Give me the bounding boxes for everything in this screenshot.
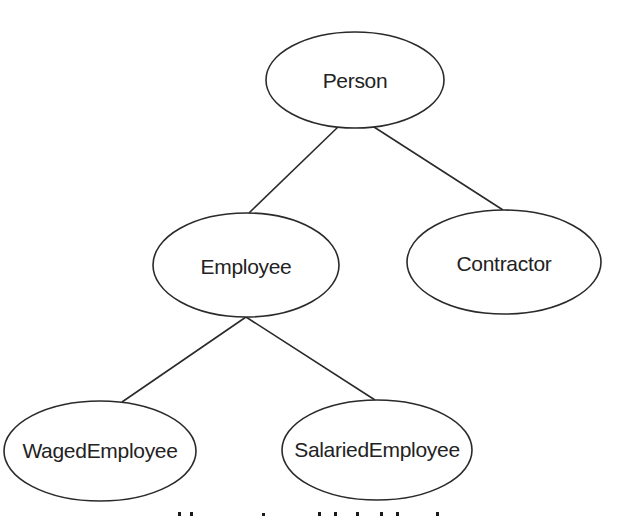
edge-employee-salaried-employee (246, 317, 375, 400)
inheritance-diagram: Person Employee Contractor WagedEmployee… (0, 0, 623, 516)
node-label-person: Person (323, 69, 388, 92)
node-label-employee: Employee (201, 255, 292, 278)
node-contractor: Contractor (407, 210, 601, 314)
node-label-salaried-employee: SalariedEmployee (294, 438, 460, 461)
node-salaried-employee: SalariedEmployee (282, 400, 472, 500)
edge-employee-waged-employee (122, 317, 246, 402)
node-person: Person (266, 32, 444, 128)
edge-person-contractor (374, 127, 503, 210)
node-label-waged-employee: WagedEmployee (22, 439, 177, 462)
node-employee: Employee (153, 213, 339, 317)
node-waged-employee: WagedEmployee (4, 401, 196, 501)
edge-person-employee (249, 127, 338, 213)
caption-cutoff (178, 512, 439, 516)
node-label-contractor: Contractor (456, 252, 551, 275)
